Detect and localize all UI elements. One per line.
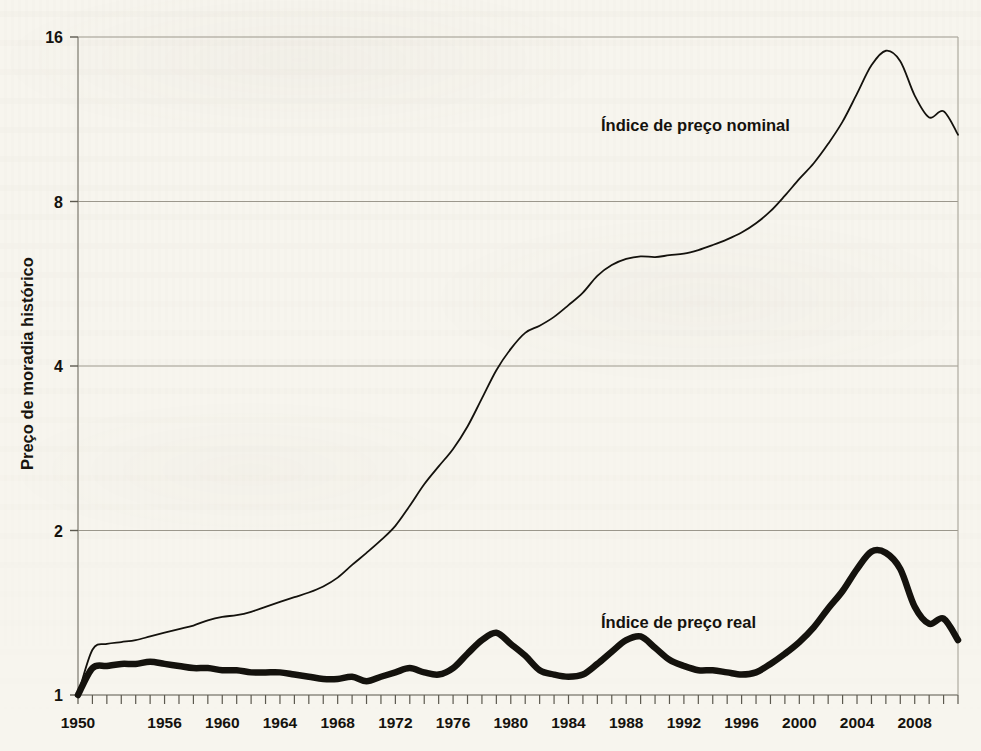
x-tick-label-1950: 1950: [61, 714, 95, 731]
x-tick-label-1972: 1972: [378, 714, 412, 731]
x-tick-label-1992: 1992: [667, 714, 701, 731]
x-tick-label-1996: 1996: [724, 714, 759, 731]
y-axis-ticks: 124816: [45, 29, 78, 704]
series-line-real: [78, 550, 958, 695]
x-tick-label-1976: 1976: [436, 714, 471, 731]
historical-home-price-chart: 124816 195019561960196419681972197619801…: [0, 0, 981, 751]
x-tick-label-2000: 2000: [782, 714, 816, 731]
x-tick-label-1980: 1980: [494, 714, 528, 731]
x-axis-ticks: [78, 695, 958, 704]
x-tick-label-1964: 1964: [263, 714, 298, 731]
y-tick-label-1: 1: [54, 687, 63, 704]
series-line-nominal: [78, 51, 958, 695]
scanned-book-page: 124816 195019561960196419681972197619801…: [0, 0, 981, 751]
y-tick-label-16: 16: [45, 29, 63, 46]
annotation-real-price-index: Índice de preço real: [601, 613, 756, 631]
annotation-nominal-price-index: Índice de preço nominal: [601, 116, 790, 134]
x-tick-label-1956: 1956: [147, 714, 182, 731]
x-tick-label-1984: 1984: [551, 714, 586, 731]
x-tick-label-2004: 2004: [840, 714, 875, 731]
x-tick-label-1968: 1968: [320, 714, 355, 731]
x-tick-label-1988: 1988: [609, 714, 644, 731]
x-axis-tick-labels: 1950195619601964196819721976198019841988…: [61, 714, 933, 731]
y-tick-label-8: 8: [54, 194, 63, 211]
series-lines: [78, 51, 958, 695]
y-axis-title: Preço de moradia histórico: [18, 257, 36, 470]
x-tick-label-2008: 2008: [897, 714, 932, 731]
x-tick-label-1960: 1960: [205, 714, 239, 731]
y-tick-label-2: 2: [54, 523, 63, 540]
gridlines: [78, 37, 958, 695]
y-tick-label-4: 4: [54, 358, 63, 375]
